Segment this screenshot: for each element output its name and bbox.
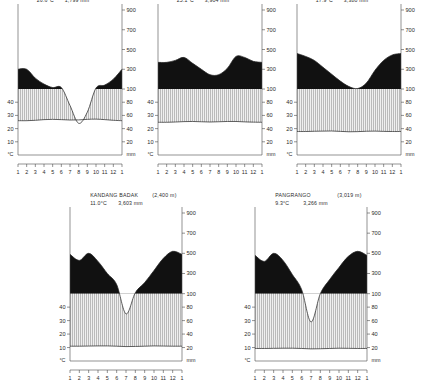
svg-text:°C: °C xyxy=(244,357,250,363)
svg-text:°C: °C xyxy=(147,151,153,157)
svg-text:3: 3 xyxy=(272,375,275,381)
svg-text:mm: mm xyxy=(187,357,196,363)
svg-text:8: 8 xyxy=(356,169,359,175)
svg-text:3,904 mm: 3,904 mm xyxy=(205,0,230,3)
svg-text:80: 80 xyxy=(372,304,378,310)
svg-text:2: 2 xyxy=(263,375,266,381)
svg-text:20: 20 xyxy=(59,331,65,337)
svg-text:80: 80 xyxy=(187,304,193,310)
climate-diagram-jakarta: 90070050030010080604020mm40302010°C12345… xyxy=(0,0,146,177)
svg-text:20: 20 xyxy=(406,139,412,145)
svg-text:100: 100 xyxy=(406,86,415,92)
climate-diagram-figure: 90070050030010080604020mm40302010°C12345… xyxy=(0,0,428,390)
svg-text:20: 20 xyxy=(372,345,378,351)
svg-text:100: 100 xyxy=(187,291,196,297)
svg-text:40: 40 xyxy=(406,126,412,132)
svg-text:30: 30 xyxy=(147,112,153,118)
svg-text:4: 4 xyxy=(322,169,325,175)
svg-text:20: 20 xyxy=(147,126,153,132)
svg-text:3: 3 xyxy=(34,169,37,175)
svg-text:25.1°C: 25.1°C xyxy=(177,0,194,3)
svg-text:500: 500 xyxy=(187,250,196,256)
svg-text:11.0°C: 11.0°C xyxy=(90,200,107,206)
svg-text:20: 20 xyxy=(244,331,250,337)
svg-text:60: 60 xyxy=(372,318,378,324)
svg-text:10: 10 xyxy=(233,169,239,175)
svg-text:6: 6 xyxy=(339,169,342,175)
svg-text:7: 7 xyxy=(69,169,72,175)
svg-text:7: 7 xyxy=(209,169,212,175)
svg-text:8: 8 xyxy=(319,375,322,381)
svg-text:11: 11 xyxy=(161,375,167,381)
svg-text:80: 80 xyxy=(267,99,273,105)
svg-text:6: 6 xyxy=(200,169,203,175)
svg-text:mm: mm xyxy=(406,151,415,157)
svg-text:60: 60 xyxy=(127,112,133,118)
svg-text:10: 10 xyxy=(147,139,153,145)
svg-text:10: 10 xyxy=(244,345,250,351)
svg-text:8: 8 xyxy=(77,169,80,175)
svg-text:3,380 mm: 3,380 mm xyxy=(344,0,369,3)
svg-text:40: 40 xyxy=(286,99,292,105)
svg-text:20: 20 xyxy=(267,139,273,145)
svg-text:60: 60 xyxy=(187,318,193,324)
svg-text:8: 8 xyxy=(134,375,137,381)
svg-text:100: 100 xyxy=(127,86,136,92)
svg-text:3: 3 xyxy=(87,375,90,381)
svg-text:26.6°C: 26.6°C xyxy=(37,0,54,3)
svg-text:mm: mm xyxy=(372,357,381,363)
svg-text:100: 100 xyxy=(372,291,381,297)
svg-text:3,266 mm: 3,266 mm xyxy=(303,200,328,206)
svg-text:20: 20 xyxy=(187,345,193,351)
svg-text:11: 11 xyxy=(242,169,248,175)
svg-text:900: 900 xyxy=(406,7,415,13)
svg-text:500: 500 xyxy=(127,47,136,53)
svg-text:9: 9 xyxy=(328,375,331,381)
svg-text:11: 11 xyxy=(381,169,387,175)
svg-text:1: 1 xyxy=(157,169,160,175)
svg-text:40: 40 xyxy=(127,126,133,132)
svg-text:6: 6 xyxy=(115,375,118,381)
svg-text:°C: °C xyxy=(7,151,13,157)
svg-text:700: 700 xyxy=(372,230,381,236)
svg-text:KANDANG BADAK: KANDANG BADAK xyxy=(90,192,138,198)
svg-text:10: 10 xyxy=(336,375,342,381)
svg-text:11: 11 xyxy=(102,169,108,175)
svg-text:40: 40 xyxy=(372,331,378,337)
svg-text:20: 20 xyxy=(286,126,292,132)
svg-text:5: 5 xyxy=(51,169,54,175)
svg-text:60: 60 xyxy=(406,112,412,118)
svg-text:20: 20 xyxy=(127,139,133,145)
svg-text:30: 30 xyxy=(7,112,13,118)
svg-text:20: 20 xyxy=(7,126,13,132)
svg-text:9: 9 xyxy=(226,169,229,175)
svg-text:2: 2 xyxy=(78,375,81,381)
svg-text:300: 300 xyxy=(406,66,415,72)
svg-text:80: 80 xyxy=(127,99,133,105)
svg-text:PANGRANGO: PANGRANGO xyxy=(275,192,311,198)
svg-text:°C: °C xyxy=(286,151,292,157)
svg-text:300: 300 xyxy=(372,270,381,276)
svg-text:8: 8 xyxy=(217,169,220,175)
svg-text:1: 1 xyxy=(69,375,72,381)
svg-text:3,603 mm: 3,603 mm xyxy=(118,200,143,206)
svg-text:6: 6 xyxy=(60,169,63,175)
svg-text:2: 2 xyxy=(304,169,307,175)
svg-text:10: 10 xyxy=(7,139,13,145)
svg-text:10: 10 xyxy=(151,375,157,381)
svg-text:900: 900 xyxy=(127,7,136,13)
svg-text:9: 9 xyxy=(143,375,146,381)
climate-diagram-bogor: 90070050030010080604020mm40302010°C12345… xyxy=(136,0,286,177)
svg-text:40: 40 xyxy=(187,331,193,337)
svg-text:9: 9 xyxy=(365,169,368,175)
svg-text:(2,400 m): (2,400 m) xyxy=(152,192,176,198)
svg-text:12: 12 xyxy=(170,375,176,381)
svg-text:4: 4 xyxy=(282,375,285,381)
svg-text:40: 40 xyxy=(267,126,273,132)
svg-text:30: 30 xyxy=(286,112,292,118)
svg-text:5: 5 xyxy=(106,375,109,381)
svg-text:12: 12 xyxy=(250,169,256,175)
svg-text:1: 1 xyxy=(400,169,403,175)
svg-text:°C: °C xyxy=(59,357,65,363)
svg-text:7: 7 xyxy=(310,375,313,381)
